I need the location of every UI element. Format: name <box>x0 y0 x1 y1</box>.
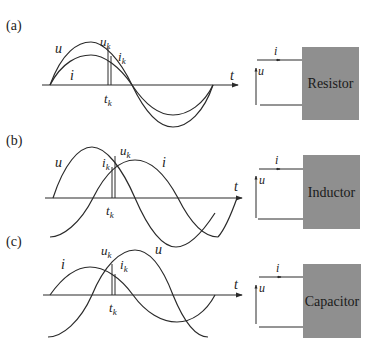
circuit-current-label: i <box>276 261 279 275</box>
tk-label: tk <box>109 300 118 317</box>
panel-a: (a) t u i uk ik tk i u Resistor <box>6 18 359 127</box>
circuit-b: i u Inductor <box>256 153 360 229</box>
ik-label: ik <box>120 257 129 274</box>
circuit-voltage-label: u <box>259 173 265 187</box>
voltage-curve-label: u <box>155 242 162 257</box>
circuit-voltage-label: u <box>258 64 264 78</box>
tk-label: tk <box>106 203 115 220</box>
current-curve-tail <box>218 198 237 237</box>
voltage-curve <box>53 147 215 247</box>
voltage-curve-label: u <box>55 41 62 56</box>
circuit-current-label: i <box>274 44 277 58</box>
time-axis-label: t <box>234 179 239 194</box>
element-label: Inductor <box>308 185 356 200</box>
uk-label: uk <box>101 243 113 260</box>
circuit-a: i u Resistor <box>256 44 359 120</box>
voltage-curve <box>48 250 208 337</box>
panel-c: (c) t i u uk ik tk i u Capacitor <box>6 234 361 338</box>
panel-b: (b) t u i uk ik tk i u Inductor <box>6 133 360 247</box>
circuit-voltage-label: u <box>259 281 265 295</box>
panel-label-b: (b) <box>6 133 23 149</box>
uk-label: uk <box>100 34 112 51</box>
circuit-current-label: i <box>275 153 278 167</box>
time-axis-label: t <box>230 68 235 83</box>
current-curve-label: i <box>61 257 65 272</box>
panel-label-c: (c) <box>6 234 22 250</box>
tk-label: tk <box>104 91 113 108</box>
current-curve-label: i <box>70 68 74 83</box>
element-label: Capacitor <box>305 294 360 309</box>
time-axis-label: t <box>234 277 239 292</box>
element-label: Resistor <box>308 76 354 91</box>
ik-label: ik <box>102 155 111 172</box>
current-curve-label: i <box>162 155 166 170</box>
uk-label: uk <box>120 143 132 160</box>
panel-label-a: (a) <box>6 18 22 34</box>
figure-canvas: (a) t u i uk ik tk i u Resistor <box>0 0 376 349</box>
waveform-plot-a: t u i uk ik tk <box>42 34 238 127</box>
waveform-plot-c: t i u uk ik tk <box>43 242 242 337</box>
voltage-curve-label: u <box>55 155 62 170</box>
waveform-plot-b: t u i uk ik tk <box>45 143 242 247</box>
ik-label: ik <box>118 49 127 66</box>
circuit-c: i u Capacitor <box>256 261 361 338</box>
